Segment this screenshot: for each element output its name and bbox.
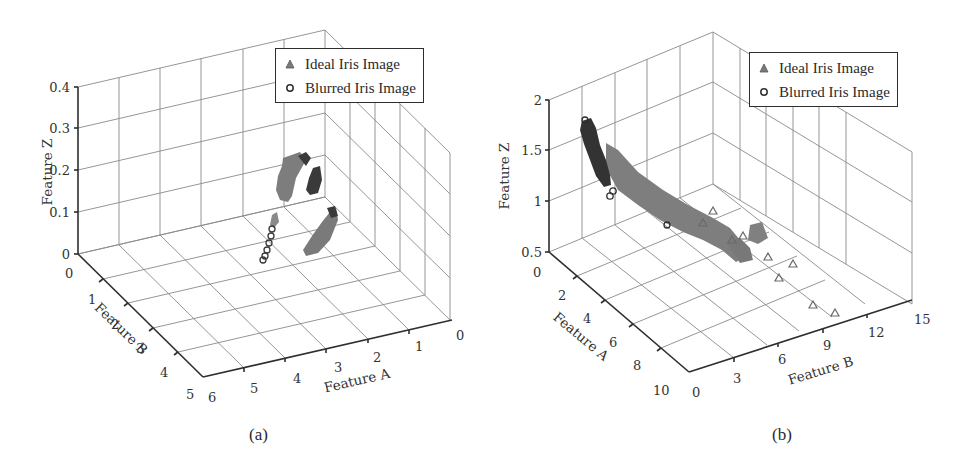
b-tick: 5 — [186, 387, 194, 402]
b-tick: 12 — [868, 325, 885, 340]
caption-a: (a) — [249, 425, 268, 445]
plot-b-a-tick-labels: 0 2 4 6 8 10 — [533, 265, 670, 398]
panel-a: 0 0.1 0.2 0.3 0.4 Feature Z 0 1 2 3 4 5 … — [0, 0, 480, 463]
legend-item-blurred: Blurred Iris Image — [283, 76, 416, 100]
z-tick: 2 — [534, 93, 542, 108]
plot-a-data — [260, 152, 338, 263]
a-tick: 0 — [533, 265, 541, 280]
a-tick: 6 — [208, 390, 216, 405]
b-tick: 6 — [778, 352, 786, 367]
z-tick: 0.3 — [49, 121, 70, 136]
legend-label: Blurred Iris Image — [779, 80, 890, 104]
plot-b-z-tick-labels: 0.5 1 1.5 2 — [521, 93, 542, 260]
plot-a-z-label: Feature Z — [39, 139, 55, 206]
z-tick: 0.1 — [49, 205, 70, 220]
z-tick: 0 — [62, 247, 70, 262]
a-tick: 5 — [250, 381, 258, 396]
a-tick: 1 — [415, 339, 423, 354]
b-tick: 1 — [88, 292, 96, 307]
a-tick: 4 — [293, 371, 301, 386]
b-tick: 4 — [160, 365, 168, 380]
plot-b-z-label: Feature Z — [496, 143, 512, 210]
z-tick: 0.5 — [521, 245, 542, 260]
a-tick: 6 — [609, 335, 617, 350]
a-tick: 2 — [373, 350, 381, 365]
b-tick: 9 — [823, 338, 831, 353]
a-tick: 0 — [456, 328, 464, 343]
legend-item-ideal: Ideal Iris Image — [757, 56, 890, 80]
b-tick: 15 — [914, 312, 931, 327]
b-tick: 0 — [65, 266, 73, 281]
legend-item-blurred: Blurred Iris Image — [757, 80, 890, 104]
z-tick: 1 — [534, 194, 542, 209]
plot-b-legend: Ideal Iris Image Blurred Iris Image — [749, 52, 898, 107]
a-tick: 3 — [334, 360, 342, 375]
circle-icon — [283, 83, 297, 93]
a-tick: 8 — [633, 358, 641, 373]
a-tick: 10 — [653, 383, 670, 398]
panel-b: 0.5 1 1.5 2 Feature Z 0 2 4 6 8 10 Featu… — [478, 0, 956, 463]
a-tick: 4 — [583, 311, 591, 326]
legend-label: Blurred Iris Image — [305, 76, 416, 100]
legend-label: Ideal Iris Image — [305, 52, 400, 76]
z-tick: 1.5 — [521, 143, 542, 158]
b-tick: 3 — [733, 371, 741, 386]
legend-item-ideal: Ideal Iris Image — [283, 52, 416, 76]
plot-a-b-label: Feature B — [92, 299, 152, 357]
b-tick: 0 — [692, 385, 700, 400]
plot-b-b-label: Feature B — [786, 353, 855, 388]
plot-b-b-tick-labels: 0 3 6 9 12 15 — [692, 312, 931, 400]
plot-b-a-label: Feature A — [550, 308, 612, 364]
plot-a-legend: Ideal Iris Image Blurred Iris Image — [275, 48, 424, 103]
a-tick: 2 — [558, 288, 566, 303]
triangle-icon — [757, 63, 771, 73]
circle-icon — [757, 87, 771, 97]
plot-b-data — [580, 117, 839, 316]
triangle-icon — [283, 59, 297, 69]
plot-a-a-label: Feature A — [322, 365, 391, 396]
legend-label: Ideal Iris Image — [779, 56, 874, 80]
caption-b: (b) — [772, 425, 792, 445]
z-tick: 0.4 — [49, 80, 70, 95]
